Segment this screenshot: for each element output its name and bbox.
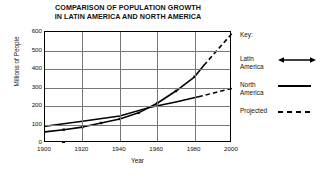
chart-title-line-1: COMPARISON OF POPULATION GROWTH: [28, 3, 228, 12]
legend-label-latin-america-line1: Latin: [240, 55, 254, 62]
gridline-1960: [157, 32, 158, 141]
legend-label-north-america-line1: North: [240, 81, 256, 88]
y-axis-title: Millions of People: [13, 30, 20, 94]
gridline-1980: [195, 32, 196, 141]
legend-sample-north-america: [278, 81, 316, 91]
north-america-series-line: [45, 97, 198, 127]
x-tick-label-1960: 1960: [143, 146, 169, 152]
y-tick-label-400: 400: [22, 65, 42, 71]
latin-america-series-line: [45, 65, 204, 132]
dashed-line-icon: [278, 107, 316, 117]
y-tick-label-200: 200: [22, 102, 42, 108]
x-tick-label-1980: 1980: [181, 146, 207, 152]
legend-label-projected: Projected: [240, 107, 276, 115]
x-axis-ticks: 1900 1920 1940 1960 1980 2000: [44, 144, 231, 156]
gridline-400: [45, 69, 230, 70]
legend-label-north-america: North America: [240, 81, 276, 96]
y-tick-label-600: 600: [22, 28, 42, 34]
arrow-line-icon: [278, 55, 316, 65]
y-tick-label-100: 100: [22, 121, 42, 127]
x-axis-title: Year: [44, 157, 231, 164]
legend-sample-projected: [278, 107, 316, 117]
chart-legend: Key: Latin America North America: [240, 31, 320, 121]
y-axis-ticks: 600 500 400 300 200 100 0: [20, 31, 42, 142]
legend-label-north-america-line2: America: [240, 89, 263, 96]
chart-title: COMPARISON OF POPULATION GROWTH IN LATIN…: [28, 3, 228, 21]
gridline-1920: [82, 32, 83, 141]
solid-line-icon: [278, 81, 316, 91]
population-growth-chart: COMPARISON OF POPULATION GROWTH IN LATIN…: [0, 0, 321, 178]
x-tick-label-1900: 1900: [31, 146, 57, 152]
y-tick-label-300: 300: [22, 84, 42, 90]
legend-label-latin-america-line2: America: [240, 63, 263, 70]
gridline-300: [45, 88, 230, 89]
x-tick-label-2000: 2000: [218, 146, 244, 152]
gridline-200: [45, 106, 230, 107]
legend-label-projected-line1: Projected: [240, 107, 267, 114]
plot-area: [44, 31, 231, 142]
legend-title: Key:: [240, 31, 253, 38]
legend-sample-latin-america: [278, 55, 316, 65]
y-tick-label-500: 500: [22, 47, 42, 53]
legend-label-latin-america: Latin America: [240, 55, 276, 70]
gridline-1940: [120, 32, 121, 141]
gridline-100: [45, 125, 230, 126]
latin-america-projected-line: [204, 33, 232, 65]
chart-title-line-2: IN LATIN AMERICA AND NORTH AMERICA: [28, 12, 228, 21]
north-america-projected-line: [198, 88, 232, 96]
gridline-500: [45, 51, 230, 52]
x-tick-label-1940: 1940: [106, 146, 132, 152]
x-tick-label-1920: 1920: [68, 146, 94, 152]
